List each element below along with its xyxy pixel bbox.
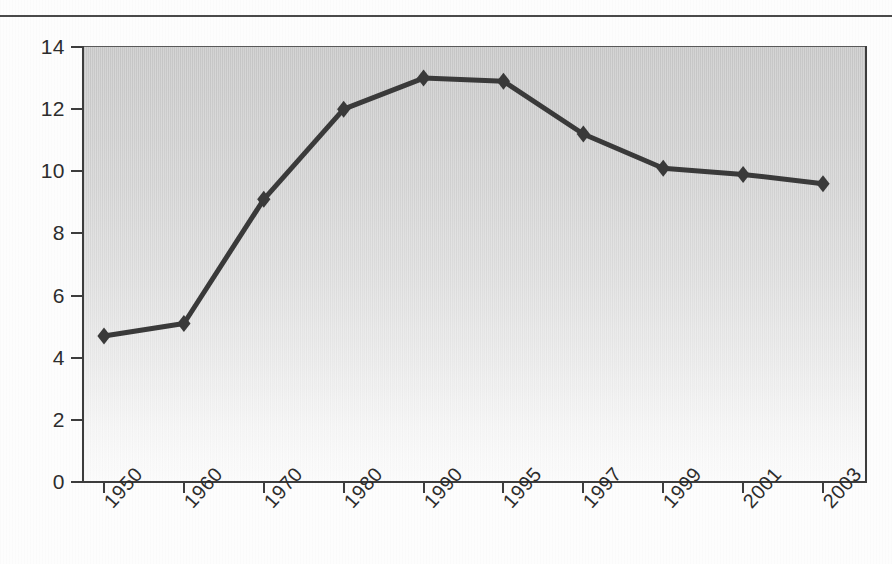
y-axis-tick-label-text: 8 <box>17 222 65 243</box>
y-axis-tick <box>71 419 82 421</box>
y-axis-tick-label-text: 6 <box>17 285 65 306</box>
y-axis-tick-label: 8 <box>12 222 65 243</box>
y-axis-tick <box>71 295 82 297</box>
y-axis-tick <box>71 46 82 48</box>
y-axis-tick-label: 14 <box>12 36 65 57</box>
page-canvas: 14121086420 1950196019701980199019951997… <box>0 0 892 564</box>
y-axis-tick-label: 2 <box>12 409 65 430</box>
y-axis-tick-label-text: 0 <box>17 471 65 492</box>
y-axis-tick <box>71 170 82 172</box>
y-axis-tick-label: 0 <box>12 471 65 492</box>
y-axis-tick <box>71 357 82 359</box>
line-chart-figure: 14121086420 1950196019701980199019951997… <box>0 0 892 564</box>
y-axis-tick-label-text: 14 <box>17 36 65 57</box>
y-axis-tick <box>71 232 82 234</box>
plot-right-border <box>865 46 867 483</box>
y-axis-tick-label-text: 2 <box>17 409 65 430</box>
y-axis-tick-label-text: 4 <box>17 347 65 368</box>
y-axis-tick-label: 10 <box>12 160 65 181</box>
y-axis-tick-label-text: 10 <box>17 160 65 181</box>
y-axis-tick-label: 12 <box>12 98 65 119</box>
plot-area <box>83 47 866 482</box>
plot-top-border <box>82 46 867 47</box>
y-axis-tick-label-text: 12 <box>17 98 65 119</box>
y-axis-tick <box>71 481 82 483</box>
y-axis-tick-label: 4 <box>12 347 65 368</box>
y-axis-tick-label: 6 <box>12 285 65 306</box>
y-axis-line <box>82 46 84 483</box>
y-axis-tick <box>71 108 82 110</box>
